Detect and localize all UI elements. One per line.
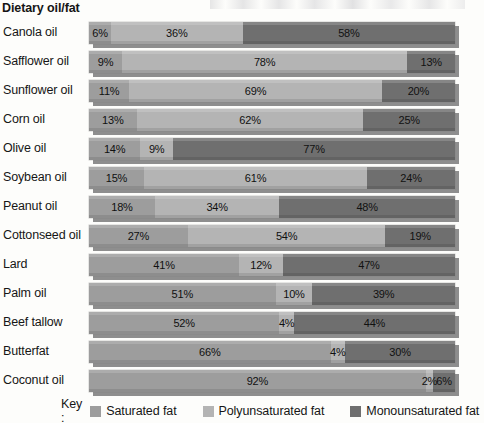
bar-segment-monounsaturated: 77% xyxy=(173,138,455,160)
row-label: Peanut oil xyxy=(3,198,87,214)
bar-segment-saturated: 51% xyxy=(89,283,276,305)
bar-segment-polyunsaturated: 10% xyxy=(276,283,313,305)
bar-segment-polyunsaturated: 4% xyxy=(331,341,346,363)
stacked-bar: 18%34%48% xyxy=(89,196,455,218)
segment-value-label: 51% xyxy=(172,288,193,300)
segment-value-label: 77% xyxy=(303,143,324,155)
segment-value-label: 27% xyxy=(128,230,149,242)
segment-value-label: 69% xyxy=(245,85,266,97)
axis-title: Dietary oil/fat xyxy=(2,1,80,15)
segment-value-label: 48% xyxy=(356,201,377,213)
segment-value-label: 4% xyxy=(279,317,295,329)
legend-label: Saturated fat xyxy=(106,404,176,418)
segment-value-label: 18% xyxy=(111,201,132,213)
bar-container: 27%54%19% xyxy=(89,225,455,247)
segment-value-label: 14% xyxy=(104,143,125,155)
chart-row: Corn oil13%62%25% xyxy=(0,108,465,137)
chart-row: Coconut oil92%2%6% xyxy=(0,369,465,398)
stacked-bar: 66%4%30% xyxy=(89,341,455,363)
chart-row: Canola oil6%36%58% xyxy=(0,21,465,50)
stacked-bar: 15%61%24% xyxy=(89,167,455,189)
bar-container: 6%36%58% xyxy=(89,22,455,44)
segment-value-label: 66% xyxy=(199,346,220,358)
bar-segment-saturated: 13% xyxy=(89,109,137,131)
stacked-bar: 52%4%44% xyxy=(89,312,455,334)
legend-swatch-icon xyxy=(90,406,101,417)
bar-segment-polyunsaturated: 78% xyxy=(122,51,407,73)
chart-row: Safflower oil9%78%13% xyxy=(0,50,465,79)
segment-value-label: 78% xyxy=(254,56,275,68)
bar-segment-polyunsaturated: 36% xyxy=(111,22,243,44)
stacked-bar: 27%54%19% xyxy=(89,225,455,247)
row-label: Butterfat xyxy=(3,343,87,359)
segment-value-label: 2% xyxy=(422,375,438,387)
scan-noise-artifact xyxy=(210,0,465,9)
bar-segment-saturated: 92% xyxy=(89,370,426,392)
segment-value-label: 9% xyxy=(98,56,114,68)
bar-container: 52%4%44% xyxy=(89,312,455,334)
stacked-bar: 41%12%47% xyxy=(89,254,455,276)
stacked-bar: 13%62%25% xyxy=(89,109,455,131)
bar-segment-saturated: 15% xyxy=(89,167,144,189)
row-label: Cottonseed oil xyxy=(3,227,87,243)
bar-segment-polyunsaturated: 34% xyxy=(155,196,279,218)
bar-segment-monounsaturated: 47% xyxy=(283,254,455,276)
segment-value-label: 15% xyxy=(106,172,127,184)
segment-value-label: 13% xyxy=(420,56,441,68)
bar-segment-monounsaturated: 6% xyxy=(433,370,455,392)
bar-segment-saturated: 18% xyxy=(89,196,155,218)
legend-items: Saturated fatPolyunsaturated fatMonounsa… xyxy=(90,404,484,418)
bar-container: 13%62%25% xyxy=(89,109,455,131)
bar-container: 15%61%24% xyxy=(89,167,455,189)
row-label: Palm oil xyxy=(3,285,87,301)
bar-container: 14%9%77% xyxy=(89,138,455,160)
chart-row: Olive oil14%9%77% xyxy=(0,137,465,166)
stacked-bar: 9%78%13% xyxy=(89,51,455,73)
segment-value-label: 39% xyxy=(373,288,394,300)
legend-key-label: Key : xyxy=(61,397,82,423)
bar-container: 9%78%13% xyxy=(89,51,455,73)
row-label: Soybean oil xyxy=(3,169,87,185)
legend-swatch-icon xyxy=(350,406,361,417)
chart-row: Palm oil51%10%39% xyxy=(0,282,465,311)
segment-value-label: 61% xyxy=(245,172,266,184)
bar-segment-polyunsaturated: 2% xyxy=(426,370,433,392)
segment-value-label: 9% xyxy=(149,143,165,155)
chart-row: Soybean oil15%61%24% xyxy=(0,166,465,195)
segment-value-label: 24% xyxy=(400,172,421,184)
bar-segment-polyunsaturated: 62% xyxy=(137,109,364,131)
bar-container: 18%34%48% xyxy=(89,196,455,218)
segment-value-label: 13% xyxy=(102,114,123,126)
bar-segment-saturated: 52% xyxy=(89,312,279,334)
segment-value-label: 47% xyxy=(358,259,379,271)
bar-segment-saturated: 27% xyxy=(89,225,188,247)
bar-segment-saturated: 9% xyxy=(89,51,122,73)
chart-row: Peanut oil18%34%48% xyxy=(0,195,465,224)
legend-label: Monounsaturated fat xyxy=(366,404,479,418)
bar-segment-monounsaturated: 19% xyxy=(385,225,455,247)
bar-segment-monounsaturated: 24% xyxy=(367,167,455,189)
bar-segment-monounsaturated: 30% xyxy=(345,341,455,363)
row-label: Canola oil xyxy=(3,24,87,40)
segment-value-label: 58% xyxy=(338,27,359,39)
chart-row: Butterfat66%4%30% xyxy=(0,340,465,369)
bar-container: 51%10%39% xyxy=(89,283,455,305)
bar-segment-saturated: 66% xyxy=(89,341,331,363)
bar-segment-saturated: 14% xyxy=(89,138,140,160)
segment-value-label: 20% xyxy=(408,85,429,97)
row-label: Safflower oil xyxy=(3,53,87,69)
segment-value-label: 12% xyxy=(250,259,271,271)
segment-value-label: 4% xyxy=(330,346,346,358)
bar-container: 41%12%47% xyxy=(89,254,455,276)
bar-segment-polyunsaturated: 61% xyxy=(144,167,367,189)
bar-container: 92%2%6% xyxy=(89,370,455,392)
segment-value-label: 36% xyxy=(166,27,187,39)
row-label: Beef tallow xyxy=(3,314,87,330)
segment-value-label: 44% xyxy=(364,317,385,329)
bar-segment-monounsaturated: 39% xyxy=(312,283,455,305)
bar-segment-polyunsaturated: 4% xyxy=(279,312,294,334)
bar-container: 11%69%20% xyxy=(89,80,455,102)
stacked-bar: 14%9%77% xyxy=(89,138,455,160)
legend-item: Monounsaturated fat xyxy=(350,404,479,418)
stacked-bar: 11%69%20% xyxy=(89,80,455,102)
